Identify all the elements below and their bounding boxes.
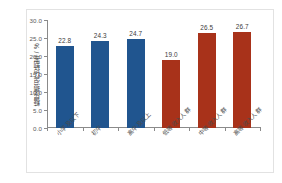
y-tick-label: 20.0 xyxy=(30,53,42,60)
x-tick xyxy=(154,127,155,131)
y-tick-label: 10.0 xyxy=(30,89,42,96)
x-tick xyxy=(83,127,84,131)
bar-value-label: 24.3 xyxy=(94,32,107,39)
y-tick xyxy=(44,92,48,93)
y-tick-label: 15.0 xyxy=(30,71,42,78)
bar: 24.3 xyxy=(91,41,109,128)
y-tick-label: 0.0 xyxy=(33,125,42,132)
chart-figure: 糖尿病治疗控制率 / % 0.05.010.015.020.025.030.0 … xyxy=(0,0,282,183)
bar-value-label: 26.5 xyxy=(200,24,213,31)
y-tick xyxy=(44,74,48,75)
x-tick xyxy=(189,127,190,131)
x-tick xyxy=(47,127,48,131)
bar-value-label: 24.7 xyxy=(129,30,142,37)
bar-value-label: 22.8 xyxy=(58,37,71,44)
y-tick-label: 30.0 xyxy=(30,17,42,24)
x-tick xyxy=(260,127,261,131)
x-tick xyxy=(225,127,226,131)
y-tick xyxy=(44,110,48,111)
bar-value-label: 26.7 xyxy=(236,23,249,30)
bar-value-label: 19.0 xyxy=(165,51,178,58)
y-tick-label: 5.0 xyxy=(33,107,42,114)
y-tick xyxy=(44,38,48,39)
y-tick xyxy=(44,56,48,57)
y-tick-label: 25.0 xyxy=(30,35,42,42)
x-tick xyxy=(118,127,119,131)
y-tick xyxy=(44,20,48,21)
